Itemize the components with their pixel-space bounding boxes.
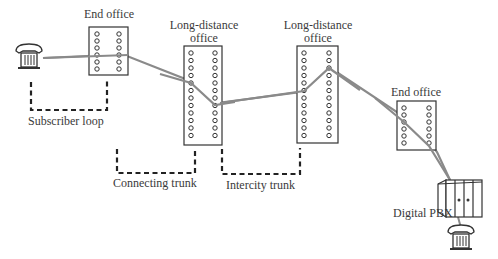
- intercity-trunk-bracket: [222, 148, 300, 174]
- subscriber-loop-label: Subscriber loop: [28, 115, 118, 128]
- end-office-1-label: End office: [78, 8, 140, 21]
- long-distance-office-1-switch-icon: [160, 46, 235, 145]
- long-distance-office-2-label-line2: office: [279, 32, 357, 45]
- telephone-icon-pbx: [448, 225, 474, 250]
- telephone-network-diagram: [0, 0, 498, 259]
- end-office-1-switch-icon: [43, 27, 128, 75]
- connecting-trunk-label: Connecting trunk: [113, 177, 209, 190]
- intercity-trunk-label: Intercity trunk: [226, 179, 312, 192]
- long-distance-office-2-label: Long-distance office: [279, 19, 357, 45]
- long-distance-office-1-label-line2: office: [165, 32, 243, 45]
- end-office-2-switch-icon: [375, 98, 450, 180]
- end-office-2-label: End office: [385, 86, 447, 99]
- connecting-trunk-bracket: [117, 148, 195, 173]
- long-distance-office-1-label: Long-distance office: [165, 19, 243, 45]
- telephone-icon-subscriber: [16, 44, 42, 69]
- digital-pbx-label: Digital PBX: [393, 207, 455, 220]
- subscriber-loop-bracket: [31, 80, 107, 110]
